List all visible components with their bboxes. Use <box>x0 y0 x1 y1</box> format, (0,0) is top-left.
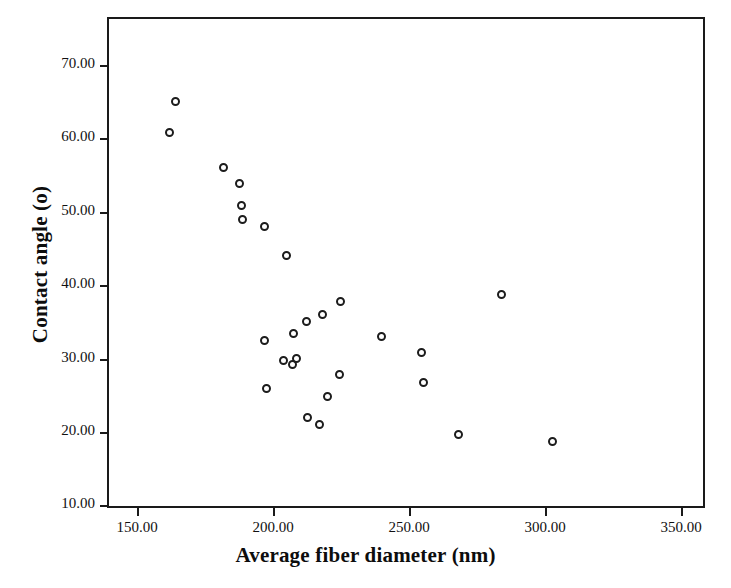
y-axis-tick-label: 10.00 <box>29 495 95 512</box>
x-axis-tick-label: 300.00 <box>500 519 590 536</box>
x-axis-tick-mark <box>409 508 411 516</box>
y-axis-tick-mark <box>100 285 107 287</box>
x-axis-label: Average fiber diameter (nm) <box>0 543 731 568</box>
x-axis-tick-mark <box>273 508 275 516</box>
x-axis-tick-label: 350.00 <box>636 519 726 536</box>
x-axis-tick-label: 250.00 <box>364 519 454 536</box>
plot-area-frame <box>107 17 705 508</box>
y-axis-tick-label: 20.00 <box>29 422 95 439</box>
y-axis-tick-mark <box>100 138 107 140</box>
y-axis-tick-mark <box>100 212 107 214</box>
y-axis-tick-mark <box>100 359 107 361</box>
scatter-plot-figure: 10.0020.0030.0040.0050.0060.0070.00150.0… <box>0 0 731 588</box>
y-axis-label: Contact angle (o) <box>28 125 53 405</box>
y-axis-tick-mark <box>100 65 107 67</box>
y-axis-tick-mark <box>100 505 107 507</box>
x-axis-tick-mark <box>681 508 683 516</box>
y-axis-tick-mark <box>100 432 107 434</box>
x-axis-tick-mark <box>137 508 139 516</box>
x-axis-tick-label: 150.00 <box>92 519 182 536</box>
y-axis-tick-label: 70.00 <box>29 55 95 72</box>
x-axis-tick-mark <box>545 508 547 516</box>
x-axis-tick-label: 200.00 <box>228 519 318 536</box>
